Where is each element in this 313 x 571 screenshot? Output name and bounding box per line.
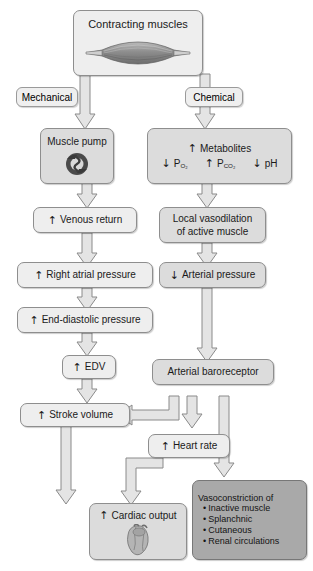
chemical-label: Chemical [193, 92, 235, 103]
vasoconstriction-item: Inactive muscle [203, 503, 302, 514]
pco2-subscript: CO₂ [224, 162, 236, 169]
stroke-volume-label: Stroke volume [49, 409, 113, 421]
arterial-pressure-label: Arterial pressure [182, 269, 255, 281]
pco2-direction-arrow: ↑ [205, 158, 214, 169]
node-heart-rate[interactable]: ↑ Heart rate [148, 434, 230, 458]
label-mechanical[interactable]: Mechanical [16, 87, 78, 107]
connector-arterial-pressure-to-baroreceptor [198, 288, 220, 363]
venous-return-label: Venous return [60, 214, 122, 226]
po2-direction-arrow: ↓ [162, 158, 171, 169]
node-contracting-muscles[interactable]: Contracting muscles [73, 10, 203, 76]
heart-rate-direction-arrow: ↑ [161, 441, 170, 452]
mechanical-label: Mechanical [22, 92, 73, 103]
po2-subscript: O₂ [180, 162, 187, 169]
node-stroke-volume[interactable]: ↑ Stroke volume [20, 403, 130, 427]
connector-muscles-to-muscle-pump [76, 74, 98, 130]
connector-metabolites-to-vasodilation [198, 183, 220, 209]
node-vasoconstriction[interactable]: Vasoconstriction of Inactive muscle Spla… [192, 480, 307, 560]
metabolites-title-row: ↑ Metabolites [188, 143, 251, 155]
node-cardiac-output[interactable]: ↑ Cardiac output [89, 503, 187, 560]
venous-return-direction-arrow: ↑ [48, 215, 57, 226]
metabolite-pco2: ↑ PCO₂ [205, 158, 236, 170]
edv-direction-arrow: ↑ [73, 362, 82, 373]
connector-heart-rate-to-cardiac-output [122, 458, 168, 506]
arterial-pressure-direction-arrow: ↓ [170, 270, 179, 281]
pco2-label: P [217, 158, 224, 169]
metabolites-label: Metabolites [200, 143, 251, 155]
node-edv[interactable]: ↑ EDV [62, 355, 116, 379]
metabolites-sub-items: ↓ PO₂ ↑ PCO₂ ↓ pH [148, 158, 291, 170]
label-chemical[interactable]: Chemical [185, 87, 243, 107]
arterial-baroreceptor-label: Arterial baroreceptor [167, 366, 258, 378]
muscle-pump-label: Muscle pump [41, 136, 113, 148]
node-local-vasodilation[interactable]: Local vasodilation of active muscle [159, 207, 266, 243]
vasoconstriction-list: Inactive muscle Splanchnic Cutaneous Ren… [198, 503, 302, 547]
node-right-atrial-pressure[interactable]: ↑ Right atrial pressure [17, 262, 153, 288]
ph-label: pH [265, 158, 278, 170]
node-arterial-pressure[interactable]: ↓ Arterial pressure [159, 262, 266, 288]
connector-edv-to-stroke-volume [78, 379, 100, 404]
node-muscle-pump[interactable]: Muscle pump [40, 128, 114, 184]
right-atrial-pressure-label: Right atrial pressure [46, 269, 135, 281]
ph-direction-arrow: ↓ [252, 158, 261, 169]
connector-end-diastolic-to-edv [78, 333, 100, 357]
flowchart-diagram: Contracting muscles Mechanical Chemical … [0, 0, 313, 571]
local-vasodilation-line1: Local vasodilation [173, 213, 253, 225]
edv-label: EDV [85, 361, 106, 373]
vasoconstriction-heading: Vasoconstriction of [198, 493, 302, 503]
vasoconstriction-item: Cutaneous [203, 525, 302, 536]
contracting-muscles-label: Contracting muscles [74, 18, 202, 31]
connector-stroke-volume-to-cardiac-output [57, 426, 79, 505]
right-atrial-pressure-direction-arrow: ↑ [34, 270, 43, 281]
node-metabolites[interactable]: ↑ Metabolites ↓ PO₂ ↑ PCO₂ ↓ pH [147, 128, 292, 184]
metabolite-ph: ↓ pH [252, 158, 277, 170]
node-venous-return[interactable]: ↑ Venous return [33, 207, 137, 233]
vasoconstriction-item: Splanchnic [203, 514, 302, 525]
cardiac-output-direction-arrow: ↑ [99, 510, 108, 521]
heart-rate-label: Heart rate [173, 440, 217, 452]
end-diastolic-pressure-label: End-diastolic pressure [42, 314, 141, 326]
metabolites-direction-arrow: ↑ [188, 143, 197, 154]
end-diastolic-pressure-direction-arrow: ↑ [29, 315, 38, 326]
local-vasodilation-line2: of active muscle [177, 226, 249, 238]
connector-baroreceptor-to-heart-rate [183, 396, 205, 429]
cardiac-output-label: Cardiac output [112, 510, 177, 522]
node-end-diastolic-pressure[interactable]: ↑ End-diastolic pressure [17, 307, 153, 333]
connector-muscle-pump-to-venous-return [78, 183, 100, 209]
stroke-volume-direction-arrow: ↑ [37, 410, 46, 421]
metabolite-po2: ↓ PO₂ [162, 158, 188, 170]
vasoconstriction-item: Renal circulations [203, 536, 302, 547]
node-arterial-baroreceptor[interactable]: Arterial baroreceptor [152, 359, 274, 385]
